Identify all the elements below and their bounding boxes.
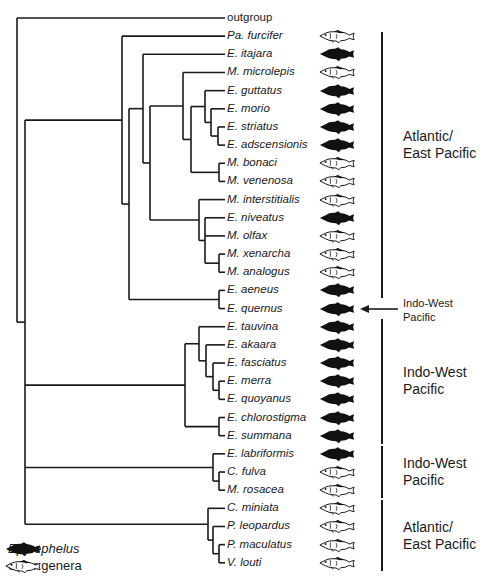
region-label: Indo-WestPacific xyxy=(403,364,467,398)
taxon-label: Pa. furcifer xyxy=(227,28,283,42)
fish-filled-icon xyxy=(318,410,356,426)
taxon-label: M. venenosa xyxy=(227,173,293,187)
region-label: Atlantic/East Pacific xyxy=(403,128,476,162)
region-bar xyxy=(381,32,383,298)
fish-outline-icon xyxy=(318,555,356,571)
fish-filled-icon xyxy=(318,355,356,371)
taxon-label: M. xenarcha xyxy=(227,246,290,260)
fish-filled-icon xyxy=(318,119,356,135)
taxon-label: M. rosacea xyxy=(227,482,284,496)
fish-filled-icon xyxy=(318,137,356,153)
fish-outline-icon xyxy=(4,558,42,574)
fish-filled-icon xyxy=(318,391,356,407)
taxon-label: E. striatus xyxy=(227,119,278,133)
taxon-label: E. chlorostigma xyxy=(227,410,306,424)
region-bar xyxy=(381,500,383,570)
fish-filled-icon xyxy=(318,210,356,226)
legend-item-other-genera: other genera xyxy=(4,558,82,573)
fish-outline-icon xyxy=(318,155,356,171)
taxon-label: E. guttatus xyxy=(227,83,282,97)
taxon-label: E. aeneus xyxy=(227,282,279,296)
taxon-label: E. summana xyxy=(227,428,292,442)
taxon-label: C. fulva xyxy=(227,464,266,478)
taxon-label: E. quernus xyxy=(227,301,283,315)
taxon-label: M. interstitialis xyxy=(227,192,300,206)
taxon-label: C. miniata xyxy=(227,500,279,514)
fish-filled-icon xyxy=(318,337,356,353)
fish-filled-icon xyxy=(318,301,356,317)
taxon-label: outgroup xyxy=(227,10,272,24)
region-label: Indo-WestPacific xyxy=(403,296,453,324)
taxon-label: M. bonaci xyxy=(227,155,277,169)
taxon-label: E. itajara xyxy=(227,46,272,60)
fish-filled-icon xyxy=(318,46,356,62)
fish-outline-icon xyxy=(318,500,356,516)
region-bar xyxy=(381,319,383,444)
fish-filled-icon xyxy=(318,319,356,335)
fish-outline-icon xyxy=(318,64,356,80)
fish-filled-icon xyxy=(318,446,356,462)
taxon-label: E. niveatus xyxy=(227,210,284,224)
taxon-label: M. microlepis xyxy=(227,64,295,78)
region-bar xyxy=(381,446,383,498)
taxon-label: P. maculatus xyxy=(227,537,292,551)
fish-outline-icon xyxy=(318,246,356,262)
fish-outline-icon xyxy=(318,264,356,280)
taxon-label: E. akaara xyxy=(227,337,276,351)
taxon-label: V. louti xyxy=(227,555,261,569)
taxon-label: E. merra xyxy=(227,373,271,387)
taxon-label: E. morio xyxy=(227,101,270,115)
fish-outline-icon xyxy=(318,537,356,553)
region-label: Atlantic/East Pacific xyxy=(403,519,476,553)
fish-filled-icon xyxy=(318,282,356,298)
taxon-label: M. analogus xyxy=(227,264,290,278)
legend-item-epinephelus: Epinephelus xyxy=(4,541,80,556)
fish-outline-icon xyxy=(318,173,356,189)
fish-outline-icon xyxy=(318,192,356,208)
arrow-left-icon xyxy=(360,304,400,314)
taxon-label: M. olfax xyxy=(227,228,267,242)
taxon-label: E. tauvina xyxy=(227,319,278,333)
fish-outline-icon xyxy=(318,482,356,498)
taxon-label: E. labriformis xyxy=(227,446,294,460)
fish-filled-icon xyxy=(318,83,356,99)
fish-outline-icon xyxy=(318,518,356,534)
fish-filled-icon xyxy=(318,428,356,444)
fish-filled-icon xyxy=(318,373,356,389)
fish-outline-icon xyxy=(318,228,356,244)
taxon-label: E. adscensionis xyxy=(227,137,308,151)
region-label: Indo-WestPacific xyxy=(403,455,467,489)
fish-filled-icon xyxy=(318,101,356,117)
taxon-label: P. leopardus xyxy=(227,518,290,532)
fish-outline-icon xyxy=(318,28,356,44)
fish-outline-icon xyxy=(318,464,356,480)
taxon-label: E. fasciatus xyxy=(227,355,286,369)
fish-filled-icon xyxy=(4,541,42,557)
taxon-label: E. quoyanus xyxy=(227,391,291,405)
